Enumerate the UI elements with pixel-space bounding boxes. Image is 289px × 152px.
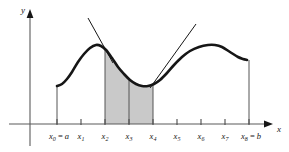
tick-label-x0: x0 = a xyxy=(48,131,69,142)
tick-label-x2: x2 xyxy=(101,131,109,142)
function-curve xyxy=(57,45,247,86)
y-axis-label: y xyxy=(20,5,25,15)
y-axis-arrowhead xyxy=(27,9,34,18)
tick-label-x3: x3 xyxy=(125,131,133,142)
tick-label-x1: x1 xyxy=(77,131,85,142)
calculus-trapezoid-figure: y x x0 = ax1x2x3x4x5x6x7x8 = b xyxy=(0,0,289,152)
x-axis-label: x xyxy=(276,124,281,134)
tangent-line-at-x4 xyxy=(150,24,196,88)
y-axis xyxy=(27,9,34,146)
tick-label-x8: x8 = b xyxy=(240,131,261,142)
tick-label-x6: x6 xyxy=(197,131,205,142)
figure-container: y x x0 = ax1x2x3x4x5x6x7x8 = b xyxy=(0,0,289,152)
tick-label-x7: x7 xyxy=(221,131,230,142)
x-axis-tick-labels: x0 = ax1x2x3x4x5x6x7x8 = b xyxy=(48,131,261,142)
tick-label-x5: x5 xyxy=(173,131,181,142)
tick-label-x4: x4 xyxy=(149,131,157,142)
tangent-lines xyxy=(88,18,196,88)
x-axis-arrowhead xyxy=(264,121,273,128)
